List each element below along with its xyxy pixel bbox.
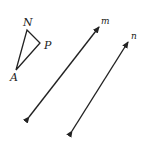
line-n	[72, 42, 128, 131]
line-label-n: n	[131, 31, 137, 41]
vertex-label-A: A	[9, 71, 18, 84]
vertex-label-N: N	[22, 16, 33, 29]
vertex-label-P: P	[43, 39, 52, 52]
line-label-m: m	[101, 16, 110, 26]
triangle-NPA	[16, 30, 40, 70]
geometry-diagram: N P A m n	[0, 0, 159, 143]
diagram-svg: N P A m n	[0, 0, 159, 143]
